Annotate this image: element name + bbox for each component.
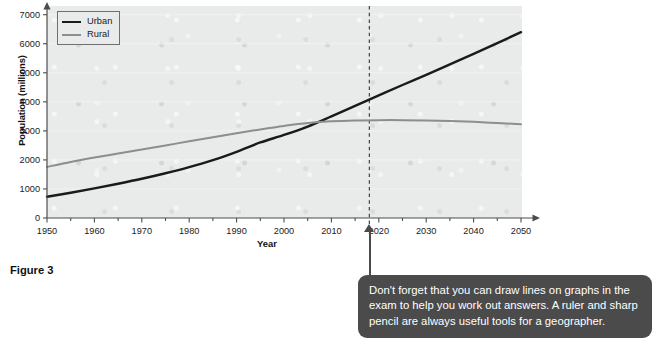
- x-tick-label-2040: 2040: [463, 226, 483, 236]
- x-axis-ticks: [47, 218, 521, 223]
- x-tick-label-1970: 1970: [132, 226, 152, 236]
- legend-item-rural: Rural: [62, 28, 112, 41]
- x-axis-arrow-icon: [533, 214, 541, 221]
- x-tick-label-1990: 1990: [226, 226, 246, 236]
- y-tick-label-7000: 7000: [20, 10, 40, 20]
- data-series-layer: [47, 32, 521, 197]
- callout-tip-box: Don't forget that you can draw lines on …: [358, 275, 652, 338]
- x-tick-label-2030: 2030: [416, 226, 436, 236]
- legend-label-urban: Urban: [87, 16, 112, 27]
- x-axis-title: Year: [257, 238, 277, 249]
- y-tick-label-0: 0: [35, 213, 40, 223]
- x-tick-label-1950: 1950: [37, 226, 57, 236]
- x-tick-label-1980: 1980: [179, 226, 199, 236]
- series-line-urban: [47, 32, 521, 197]
- y-axis-title: Population (millions): [16, 41, 27, 161]
- callout-text: Don't forget that you can draw lines on …: [369, 283, 641, 329]
- x-tick-label-2050: 2050: [511, 226, 531, 236]
- x-tick-label-2010: 2010: [321, 226, 341, 236]
- x-tick-label-2000: 2000: [274, 226, 294, 236]
- callout-stem: [369, 228, 371, 276]
- x-tick-label-1960: 1960: [84, 226, 104, 236]
- legend-swatch-urban-icon: [62, 21, 81, 23]
- legend-label-rural: Rural: [87, 29, 109, 40]
- legend-swatch-rural-icon: [62, 34, 81, 36]
- y-tick-label-1000: 1000: [20, 184, 40, 194]
- legend-item-urban: Urban: [62, 15, 112, 28]
- chart-legend: Urban Rural: [57, 11, 120, 45]
- y-axis-arrow-icon: [43, 2, 50, 10]
- figure-caption: Figure 3: [10, 264, 54, 276]
- x-axis-tick-labels: 1950196019701980199020002010202020302040…: [37, 226, 531, 236]
